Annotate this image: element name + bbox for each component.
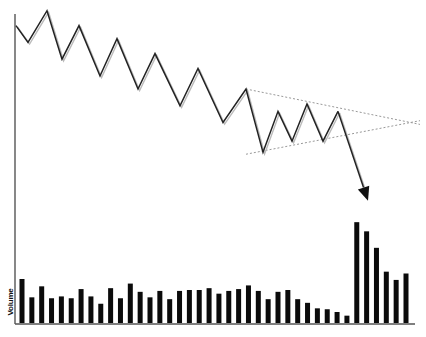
- volume-bar: [177, 291, 182, 323]
- volume-bar: [39, 286, 44, 323]
- volume-bar: [98, 304, 103, 323]
- volume-bar: [216, 294, 221, 323]
- volume-bars: [20, 222, 409, 323]
- volume-bar: [384, 272, 389, 323]
- volume-bar: [354, 222, 359, 323]
- volume-bar: [157, 291, 162, 323]
- volume-bar: [246, 285, 251, 323]
- volume-bar: [187, 290, 192, 323]
- breakout-arrow-shaft: [338, 111, 364, 187]
- volume-bar: [118, 298, 123, 323]
- volume-bar: [266, 299, 271, 323]
- volume-bar: [325, 309, 330, 323]
- price-line: [16, 11, 338, 153]
- volume-bar: [295, 299, 300, 323]
- volume-bar: [276, 292, 281, 323]
- breakout-arrow-head: [358, 186, 369, 201]
- volume-bar: [344, 316, 349, 323]
- volume-bar: [49, 298, 54, 323]
- price-line-shadow: [18, 12, 340, 154]
- volume-bar: [394, 280, 399, 323]
- volume-bar: [79, 289, 84, 323]
- volume-bar: [20, 279, 25, 323]
- volume-bar: [207, 288, 212, 323]
- volume-bar: [335, 312, 340, 323]
- volume-bar: [364, 231, 369, 323]
- volume-bar: [108, 288, 113, 323]
- trendline-upper-resistance: [246, 89, 420, 124]
- volume-bar: [226, 291, 231, 323]
- volume-bar: [285, 290, 290, 323]
- volume-bar: [59, 296, 64, 323]
- volume-bar: [404, 274, 409, 324]
- volume-bar: [148, 297, 153, 323]
- volume-bar: [29, 297, 34, 323]
- volume-bar: [138, 292, 143, 323]
- volume-bar: [315, 308, 320, 323]
- volume-bar: [374, 248, 379, 323]
- volume-bar: [69, 298, 74, 323]
- volume-bar: [256, 291, 261, 323]
- volume-bar: [236, 289, 241, 323]
- breakout-arrow-shaft-shadow: [340, 113, 366, 189]
- chart-canvas: [0, 0, 426, 337]
- volume-bar: [88, 296, 93, 323]
- price-series: [16, 11, 369, 201]
- volume-bar: [167, 299, 172, 323]
- volume-bar: [128, 284, 133, 323]
- y-axis-label: Volume: [6, 282, 18, 322]
- volume-bar: [197, 290, 202, 323]
- volume-bar: [305, 303, 310, 323]
